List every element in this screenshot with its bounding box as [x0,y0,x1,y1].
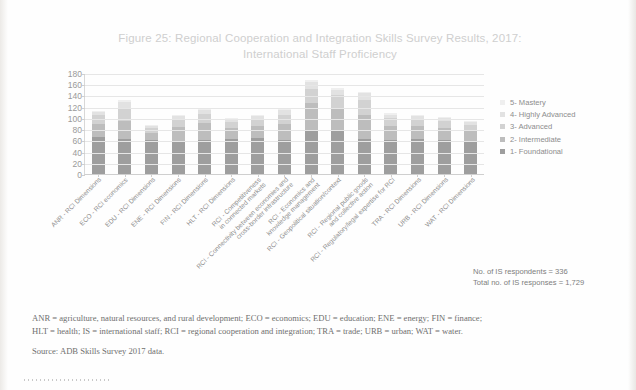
bar-column[interactable] [85,74,112,174]
legend-item[interactable]: 1- Foundational [500,146,628,158]
bar-segment[interactable] [172,127,185,142]
bar-column[interactable] [245,74,272,174]
bar-column[interactable] [165,74,192,174]
figure-title-line-2: International Staff Proficiency [70,46,570,62]
figure-title: Figure 25: Regional Cooperation and Inte… [70,30,570,62]
gridline [85,164,484,165]
x-axis-label-line: URB - RCI Dimensions [397,176,450,229]
stacked-bar[interactable] [145,125,158,174]
x-axis-label: ECO - RCI economics [78,176,129,227]
y-axis-tick-label: 20 [73,159,82,169]
bar-segment[interactable] [145,140,158,174]
bar-segment[interactable] [438,140,451,174]
x-axis-label-line: ENE - RCI Dimensions [130,176,183,229]
bar-segment[interactable] [251,126,264,138]
y-axis-tickmark [82,74,85,75]
x-axis-label: TRA - RCI Dimensions [371,176,423,228]
legend-item-label: 1- Foundational [510,147,563,156]
bar-segment[interactable] [464,141,477,174]
stacked-bar[interactable] [172,115,185,174]
bar-segment[interactable] [198,140,211,174]
responses-count: Total no. of IS responses = 1,729 [473,277,584,288]
source-note: Source: ADB Skills Survey 2017 data. [32,346,164,356]
chart-legend: 5- Mastery4- Highly Advanced3- Advanced2… [500,96,628,158]
stacked-bar[interactable] [251,115,264,174]
bar-segment[interactable] [92,137,105,174]
gridline [85,153,484,154]
y-axis-tickmark [82,119,85,120]
bar-segment[interactable] [384,126,397,141]
page-dotted-rule [24,379,110,381]
y-axis-tick-label: 60 [73,136,82,146]
legend-item-label: 2- Intermediate [510,135,561,144]
x-axis-label: EDU - RCI Dimensions [103,176,156,229]
legend-item[interactable]: 5- Mastery [500,96,628,108]
y-axis-tickmark [82,108,85,109]
bar-segment[interactable] [278,124,291,141]
x-axis-labels: ANR - RCI DimensionsECO - RCI economicsE… [84,176,484,272]
bar-column[interactable] [138,74,165,174]
stacked-bar[interactable] [305,80,318,174]
stacked-bar[interactable] [464,121,477,174]
y-axis-tick-label: 80 [73,125,82,135]
bar-segment[interactable] [411,119,424,126]
bar-column[interactable] [324,74,351,174]
y-axis-tick-label: 140 [68,91,82,101]
legend-swatch-icon [500,100,505,105]
bar-segment[interactable] [464,130,477,141]
gridline [85,85,484,86]
x-axis-label: WAT - RCI Dimensions [423,176,476,229]
stacked-bar[interactable] [411,115,424,174]
bar-segment[interactable] [411,139,424,174]
bar-segment[interactable] [172,119,185,127]
bar-column[interactable] [271,74,298,174]
stacked-bar[interactable] [438,117,451,174]
bar-segment[interactable] [251,119,264,126]
bar-segment[interactable] [251,138,264,174]
y-axis-tickmark [82,141,85,142]
bar-segment[interactable] [411,126,424,139]
bar-column[interactable] [112,74,139,174]
plot-grid [84,74,484,175]
bar-column[interactable] [378,74,405,174]
stacked-bar[interactable] [358,92,371,174]
legend-item[interactable]: 2- Intermediate [500,133,628,145]
abbreviations-line-2: HLT = health; IS = international staff; … [32,325,612,338]
gridline [85,130,484,131]
page-edge-shadow-right [628,0,636,390]
bar-column[interactable] [218,74,245,174]
x-axis-label-line: WAT - RCI Dimensions [423,176,476,229]
bar-segment[interactable] [118,139,131,174]
stacked-bar[interactable] [384,113,397,174]
x-axis-label-line: FIN - RCI Dimensions [159,176,210,227]
y-axis-tickmark [82,130,85,131]
bar-segment[interactable] [278,140,291,174]
survey-stats: No. of IS respondents = 336 Total no. of… [473,266,584,288]
gridline [85,74,484,75]
x-axis-label: ENE - RCI Dimensions [130,176,183,229]
legend-item[interactable]: 3- Advanced [500,121,628,133]
x-axis-label-line: TRA - RCI Dimensions [371,176,423,228]
legend-item[interactable]: 4- Highly Advanced [500,108,628,120]
abbreviations-note: ANR = agriculture, natural resources, an… [32,312,612,338]
legend-swatch-icon [500,149,505,154]
y-axis-tick-label: 160 [68,80,82,90]
bar-segment[interactable] [225,139,238,174]
bar-segment[interactable] [198,123,211,140]
bar-column[interactable] [298,74,325,174]
y-axis-tickmark [82,96,85,97]
bar-segment[interactable] [438,121,451,128]
bar-column[interactable] [431,74,458,174]
bar-segment[interactable] [358,139,371,174]
respondents-count: No. of IS respondents = 336 [473,266,584,277]
y-axis-tick-label: 180 [68,69,82,79]
bar-column[interactable] [351,74,378,174]
bar-column[interactable] [191,74,218,174]
stacked-bar[interactable] [225,118,238,174]
bar-segment[interactable] [145,133,158,141]
bar-column[interactable] [404,74,431,174]
bar-column[interactable] [457,74,484,174]
bar-segment[interactable] [172,141,185,174]
legend-swatch-icon [500,112,505,117]
bar-segment[interactable] [384,140,397,174]
